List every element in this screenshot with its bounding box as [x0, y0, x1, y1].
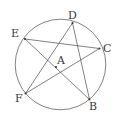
- chord-C-E: [25, 39, 100, 49]
- point-marker-c: [99, 48, 101, 50]
- chord-B-D: [73, 23, 90, 100]
- point-marker-e: [24, 38, 26, 40]
- vertex-label-f: F: [15, 93, 23, 104]
- vertex-label-c: C: [103, 43, 111, 54]
- geometry-figure: BCDEFA: [0, 0, 118, 123]
- point-marker-f: [25, 93, 27, 95]
- vertex-label-e: E: [11, 28, 19, 39]
- vertex-label-b: B: [89, 101, 97, 112]
- chord-E-B: [25, 39, 90, 100]
- chord-D-F: [26, 23, 73, 94]
- vertex-label-d: D: [68, 10, 77, 21]
- point-marker-d: [72, 22, 74, 24]
- vertex-label-a: A: [57, 55, 65, 66]
